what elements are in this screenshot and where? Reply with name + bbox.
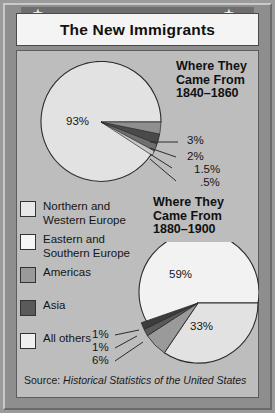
legend-label-northern-western-europe: Northern and Western Europe <box>43 200 126 227</box>
legend-item-eastern-southern-europe[interactable]: Eastern and Southern Europe <box>20 233 150 261</box>
legend-swatch-asia <box>20 300 36 316</box>
pie-chart-1840-1860 <box>40 61 162 183</box>
page-title: The New Immigrants <box>60 21 215 39</box>
title-plate: The New Immigrants <box>16 13 259 46</box>
pie-1-slice-label-0-5: .5% <box>200 176 220 188</box>
legend-label-all-others: All others <box>43 332 91 346</box>
chart-2-heading: Where They Came From 1880–1900 <box>153 196 224 237</box>
pie-1-slice-label-93: 93% <box>66 115 89 127</box>
pie-2-leader-lines <box>113 328 155 376</box>
source-note: Source: Historical Statistics of the Uni… <box>24 374 246 386</box>
legend-label-americas: Americas <box>43 266 91 280</box>
pie-1-slice-label-3: 3% <box>187 134 204 146</box>
pie-2-slice-label-33: 33% <box>190 320 213 332</box>
source-prefix: Source: <box>24 374 63 386</box>
pie-1-slice-label-2: 2% <box>187 150 204 162</box>
source-title: Historical Statistics of the United Stat… <box>63 374 246 386</box>
legend-swatch-americas <box>20 267 36 283</box>
infographic-frame: ★ ★ The New Immigrants Where They Came F… <box>0 0 275 413</box>
pie-chart-1880-1900 <box>137 242 259 364</box>
legend-label-asia: Asia <box>43 299 65 313</box>
legend-item-asia[interactable]: Asia <box>20 299 150 327</box>
pie-1-slice-label-1-5: 1.5% <box>194 163 220 175</box>
legend-swatch-all-others <box>20 333 36 349</box>
legend-swatch-northern-western-europe <box>20 201 36 217</box>
legend-item-northern-western-europe[interactable]: Northern and Western Europe <box>20 200 150 228</box>
legend-item-americas[interactable]: Americas <box>20 266 150 294</box>
pie-2-slice-label-6: 6% <box>92 354 109 366</box>
pie-2-slice-label-1-a: 1% <box>92 328 109 340</box>
pie-2-slice-label-1-b: 1% <box>92 341 109 353</box>
chart-1-heading: Where They Came From 1840–1860 <box>176 60 247 101</box>
pie-2-slice-label-59: 59% <box>169 268 192 280</box>
legend-label-eastern-southern-europe: Eastern and Southern Europe <box>43 233 130 260</box>
legend-swatch-eastern-southern-europe <box>20 234 36 250</box>
